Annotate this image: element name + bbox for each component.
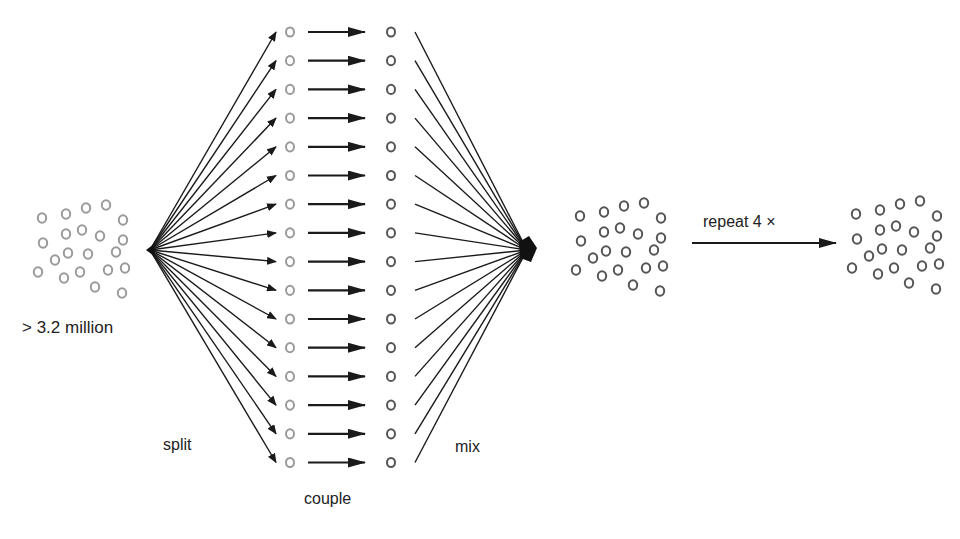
bead-icon — [286, 200, 294, 209]
bead-icon — [51, 255, 59, 265]
bead-icon — [616, 223, 624, 233]
couple-label: couple — [304, 490, 351, 508]
split-arrow — [150, 147, 276, 250]
mix-line — [415, 250, 527, 348]
bead-icon — [387, 314, 395, 323]
bead-icon — [852, 209, 860, 219]
bead-icon — [286, 429, 294, 438]
bead-icon — [286, 458, 294, 467]
bead-icon — [622, 247, 630, 257]
bead-icon — [102, 200, 110, 210]
bead-icon — [82, 203, 90, 213]
bead-icon — [659, 261, 667, 271]
bead-pool-mixed — [572, 198, 667, 296]
bead-icon — [614, 265, 622, 275]
bead-icon — [286, 114, 294, 123]
bead-icon — [878, 244, 886, 254]
mix-line — [415, 118, 527, 250]
bead-icon — [935, 259, 943, 269]
bead-icon — [865, 251, 873, 261]
bead-icon — [62, 229, 70, 239]
bead-icon — [896, 199, 904, 209]
bead-icon — [876, 205, 884, 215]
bead-icon — [286, 286, 294, 295]
bead-icon — [62, 209, 70, 219]
bead-icon — [853, 234, 861, 244]
bead-icon — [656, 286, 664, 296]
bead-icon — [119, 215, 127, 225]
bead-icon — [932, 284, 940, 294]
mix-line — [415, 250, 527, 434]
bead-icon — [650, 245, 658, 255]
bead-icon — [642, 263, 650, 273]
bead-icon — [112, 247, 120, 257]
bead-icon — [657, 233, 665, 243]
bead-icon — [286, 401, 294, 410]
bead-icon — [387, 429, 395, 438]
bead-icon — [387, 257, 395, 266]
split-label: split — [163, 436, 191, 454]
bead-icon — [84, 249, 92, 259]
bead-icon — [39, 238, 47, 248]
bead-icon — [121, 263, 129, 273]
bead-icon — [91, 282, 99, 292]
bead-icon — [387, 85, 395, 94]
bead-icon — [874, 269, 882, 279]
bead-icon — [387, 458, 395, 467]
bead-icon — [926, 243, 934, 253]
split-arrow — [150, 32, 276, 250]
bead-icon — [892, 221, 900, 231]
bead-icon — [104, 265, 112, 275]
mix-line — [415, 176, 527, 251]
split-arrow — [150, 233, 276, 250]
mix-line — [415, 147, 527, 250]
bead-icon — [905, 278, 913, 288]
bead-icon — [916, 196, 924, 206]
bead-icon — [387, 372, 395, 381]
split-origin — [146, 244, 154, 256]
bead-icon — [286, 343, 294, 352]
bead-icon — [387, 401, 395, 410]
split-arrow — [150, 176, 276, 251]
bead-pool-initial — [34, 200, 129, 298]
bead-icon — [918, 261, 926, 271]
bead-icon — [387, 171, 395, 180]
bead-icon — [576, 211, 584, 221]
bead-icon — [910, 227, 918, 237]
bead-icon — [572, 265, 580, 275]
bead-icon — [629, 280, 637, 290]
bead-icon — [933, 211, 941, 221]
bead-icon — [387, 228, 395, 237]
bead-icon — [848, 263, 856, 273]
bead-icon — [876, 225, 884, 235]
bead-icon — [34, 267, 42, 277]
bead-icon — [60, 273, 68, 283]
mix-label: mix — [455, 438, 480, 456]
repeat-label: repeat 4 × — [703, 213, 776, 231]
bead-icon — [890, 263, 898, 273]
bead-icon — [387, 114, 395, 123]
split-arrow — [150, 89, 276, 250]
bead-icon — [620, 201, 628, 211]
mix-line — [415, 32, 527, 250]
bead-icon — [96, 231, 104, 241]
split-arrow — [150, 204, 276, 250]
bead-icon — [286, 85, 294, 94]
bead-icon — [78, 225, 86, 235]
pool-size-label: > 3.2 million — [22, 318, 113, 338]
bead-icon — [577, 236, 585, 246]
bead-icon — [387, 343, 395, 352]
bead-icon — [600, 207, 608, 217]
split-arrows — [146, 32, 276, 463]
mix-line — [415, 250, 527, 463]
bead-icon — [286, 171, 294, 180]
split-arrow — [150, 61, 276, 250]
bead-icon — [387, 286, 395, 295]
split-arrow — [150, 118, 276, 250]
bead-icon — [387, 27, 395, 36]
bead-icon — [286, 27, 294, 36]
bead-icon — [640, 198, 648, 208]
bead-icon — [286, 228, 294, 237]
mix-line — [415, 89, 527, 250]
split-couple-mix-diagram — [0, 0, 960, 539]
